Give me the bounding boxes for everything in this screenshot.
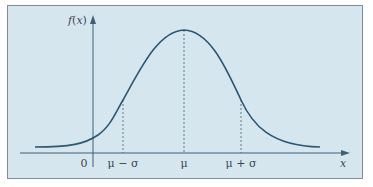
x-axis-arrow-icon [341, 150, 350, 156]
y-axis-arrow-icon [90, 15, 96, 24]
origin-label: 0 [81, 157, 88, 170]
bell-curve [35, 30, 320, 147]
normal-curve-diagram: f(x) x 0 μ − σ μ μ + σ [0, 0, 373, 187]
x-axis-label: x [340, 157, 347, 170]
mu-minus-sigma-label: μ − σ [108, 157, 139, 170]
y-axis-label: f(x) [67, 14, 87, 27]
mu-label: μ [180, 157, 187, 170]
mu-plus-sigma-label: μ + σ [226, 157, 257, 170]
